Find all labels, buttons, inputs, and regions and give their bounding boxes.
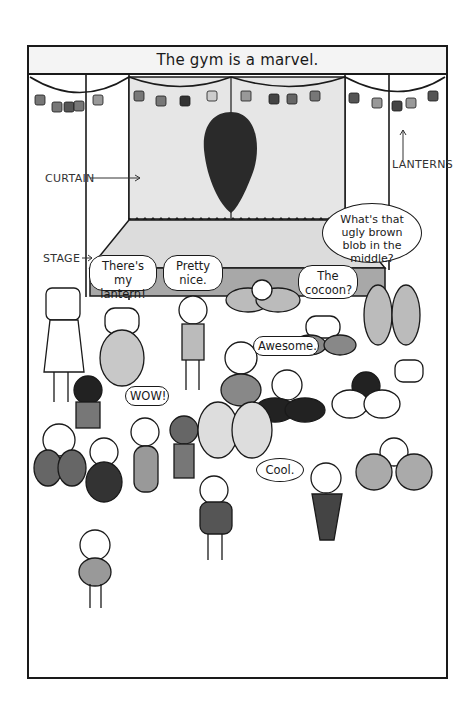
speech-bubble-the-cocoon: The cocoon? <box>298 265 358 299</box>
speech-bubble-pretty-nice: Pretty nice. <box>163 255 223 291</box>
label-curtain: CURTAIN <box>45 172 95 185</box>
speech-bubble-ugly-blob: What's that ugly brown blob in the middl… <box>322 203 422 263</box>
speech-bubble-wow: WOW! <box>125 386 169 406</box>
label-lanterns: LANTERNS <box>392 158 453 171</box>
crowd <box>34 280 432 608</box>
gym-scene <box>0 0 474 714</box>
speech-bubble-cool: Cool. <box>256 458 304 482</box>
speech-bubble-theres-my-lantern: There's my lantern! <box>89 255 157 291</box>
speech-bubble-awesome: Awesome. <box>253 336 319 356</box>
caption-box: The gym is a marvel. <box>27 45 448 75</box>
label-stage: STAGE <box>43 252 80 265</box>
